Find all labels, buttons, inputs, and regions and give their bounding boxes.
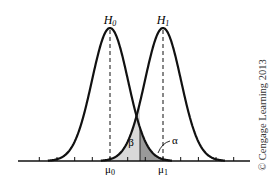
h1-label: H1 <box>156 13 170 28</box>
alpha-label: α <box>172 134 178 146</box>
mu0-label: μ0 <box>105 163 115 177</box>
copyright-credit: © Cengage Learning 2013 <box>257 59 268 171</box>
hypothesis-test-diagram: H0 H1 μ0 μ1 β α <box>0 0 276 180</box>
beta-label: β <box>128 136 134 148</box>
alpha-pointer-line <box>158 141 170 153</box>
mu1-label: μ1 <box>158 163 168 177</box>
h0-label: H0 <box>103 13 117 28</box>
